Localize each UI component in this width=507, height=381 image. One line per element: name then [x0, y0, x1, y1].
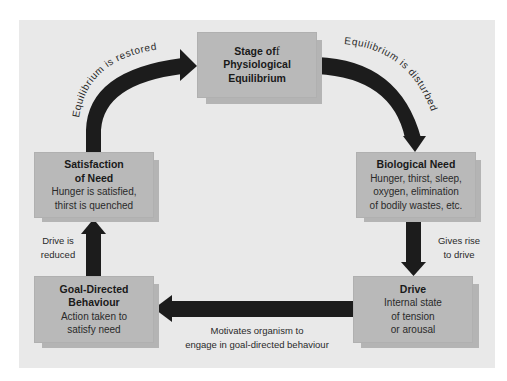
- box-equilibrium: Stage off Physiological Equilibrium: [197, 32, 317, 98]
- node-title: Satisfaction: [64, 158, 124, 172]
- label-line: to drive: [424, 248, 494, 262]
- label-line: Drive is: [30, 234, 86, 248]
- label-gives-rise: Gives rise to drive: [424, 234, 494, 261]
- node-title: Goal-Directed: [60, 283, 129, 297]
- node-description: thirst is quenched: [55, 199, 133, 213]
- box-goal-directed: Goal-Directed Behaviour Action taken to …: [34, 276, 154, 343]
- label-motivates: Motivates organism to engage in goal-dir…: [160, 324, 354, 351]
- node-description: Hunger is satisfied,: [51, 185, 136, 199]
- arrow-gives-rise: [401, 218, 426, 276]
- node-description: of tension: [391, 310, 434, 324]
- node-title: Equilibrium: [228, 72, 286, 86]
- node-description: Internal state: [384, 296, 442, 310]
- node-title: Physiological: [223, 58, 291, 72]
- node-title: Biological Need: [377, 158, 456, 172]
- label-line: Gives rise: [424, 234, 494, 248]
- node-equilibrium: Stage off Physiological Equilibrium: [197, 32, 322, 104]
- node-title: Drive: [400, 283, 426, 297]
- node-biological-need: Biological Need Hunger, thirst, sleep, o…: [356, 152, 481, 222]
- node-goal-directed: Goal-Directed Behaviour Action taken to …: [34, 276, 159, 348]
- box-drive: Drive Internal state of tension or arous…: [353, 276, 473, 343]
- label-line: reduced: [30, 248, 86, 262]
- box-satisfaction: Satisfaction of Need Hunger is satisfied…: [34, 152, 154, 218]
- arrow-motivates: [154, 295, 353, 322]
- node-title: Stage off: [234, 45, 279, 59]
- label-line: Motivates organism to: [160, 324, 354, 338]
- label-drive-reduced: Drive is reduced: [30, 234, 86, 261]
- node-title: of Need: [75, 172, 114, 186]
- node-drive: Drive Internal state of tension or arous…: [353, 276, 479, 348]
- box-biological-need: Biological Need Hunger, thirst, sleep, o…: [356, 152, 476, 218]
- node-description: Action taken to: [61, 310, 127, 324]
- node-description: Hunger, thirst, sleep,: [370, 172, 462, 186]
- node-description: of bodily wastes, etc.: [370, 199, 463, 213]
- node-description: oxygen, elimination: [373, 185, 459, 199]
- node-description: satisfy need: [67, 323, 120, 337]
- node-title: Behaviour: [68, 296, 119, 310]
- label-line: engage in goal-directed behaviour: [160, 338, 354, 352]
- node-satisfaction: Satisfaction of Need Hunger is satisfied…: [34, 152, 159, 222]
- node-description: or arousal: [391, 323, 435, 337]
